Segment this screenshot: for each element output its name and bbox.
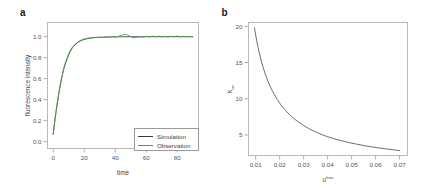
x-tick-label: 0.03 [297, 161, 310, 168]
figure-container: a 0.00.20.40.60.81.0020406080timefluores… [0, 0, 423, 188]
series-line-1 [53, 34, 193, 134]
panel-b-svg: 51015200.010.020.030.040.050.060.07ufree… [212, 0, 423, 188]
legend-swatch-observation [138, 145, 153, 146]
y-tick-label: 0.8 [33, 54, 42, 61]
x-tick-label: 0 [51, 154, 55, 161]
y-tick-label: 0.0 [33, 138, 42, 145]
x-tick-label: 80 [174, 154, 181, 161]
x-axis-title: time [117, 169, 130, 176]
legend-item-simulation: Simulation [138, 132, 194, 141]
legend-swatch-simulation [138, 136, 153, 137]
series-line-0 [254, 28, 399, 151]
y-tick-label: 0.2 [33, 117, 42, 124]
panel-b: b 51015200.010.020.030.040.050.060.07ufr… [212, 0, 423, 188]
panel-a-svg: 0.00.20.40.60.81.0020406080timefluoresce… [0, 0, 212, 188]
y-tick-label: 1.0 [33, 33, 42, 40]
y-axis-title: fluorescence intensity [24, 54, 32, 116]
legend-item-observation: Observation [138, 141, 194, 150]
panel-a: a 0.00.20.40.60.81.0020406080timefluores… [0, 0, 212, 188]
y-tick-label: 0.4 [33, 96, 42, 103]
x-tick-label: 0.07 [393, 161, 406, 168]
panel-a-legend: Simulation Observation [134, 128, 199, 151]
y-tick-label: 20 [235, 23, 242, 30]
series-line-0 [53, 37, 193, 135]
x-tick-label: 0.04 [321, 161, 334, 168]
x-tick-label: 0.01 [249, 161, 262, 168]
x-tick-label: 0.02 [273, 161, 286, 168]
y-axis-title: kon [226, 84, 235, 93]
x-tick-label: 0.06 [369, 161, 382, 168]
y-tick-label: 0.6 [33, 75, 42, 82]
y-tick-label: 5 [239, 131, 243, 138]
x-tick-label: 0.05 [345, 161, 358, 168]
y-tick-label: 15 [235, 59, 242, 66]
legend-label-simulation: Simulation [157, 132, 186, 141]
x-axis-title: ufree [322, 175, 334, 183]
x-tick-label: 20 [81, 154, 88, 161]
x-tick-label: 60 [143, 154, 150, 161]
legend-label-observation: Observation [157, 141, 190, 150]
x-tick-label: 40 [112, 154, 119, 161]
y-tick-label: 10 [235, 95, 242, 102]
